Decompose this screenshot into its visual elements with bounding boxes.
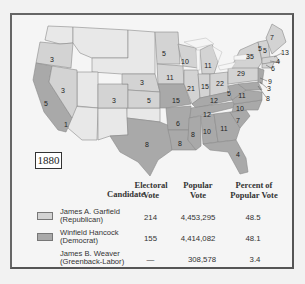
state-electoral-count: 5 — [263, 47, 267, 54]
state-electoral-count: 8 — [145, 141, 149, 148]
state-electoral-count: 12 — [203, 111, 211, 118]
electoral-weaver: — — [138, 255, 163, 264]
state-electoral-count: 3 — [112, 97, 116, 104]
state-electoral-count: 3 — [267, 85, 271, 92]
electoral-garfield: 214 — [138, 213, 163, 222]
territory-washington — [45, 26, 73, 44]
header-electoral-vote: Electoral Vote — [128, 181, 174, 200]
territory-utah — [77, 72, 98, 108]
territory-idaho-montana — [73, 27, 128, 58]
state-electoral-count: 1 — [64, 121, 68, 128]
state-electoral-count: 10 — [181, 58, 189, 65]
candidate-weaver: James B. Weaver (Greenback-Labor) — [60, 250, 124, 266]
state-electoral-count: 12 — [210, 97, 218, 104]
state-electoral-count: 35 — [246, 53, 254, 60]
state-electoral-count: 3 — [50, 56, 54, 63]
state-electoral-count: 29 — [237, 70, 245, 77]
state-electoral-count: 11 — [220, 125, 227, 132]
us-electoral-map: 3351335510111121152215125111210768101188… — [0, 0, 305, 200]
state-electoral-count: 15 — [201, 83, 209, 90]
state-florida — [203, 140, 248, 174]
state-electoral-count: 8 — [178, 140, 182, 147]
state-electoral-count: 7 — [270, 34, 274, 41]
candidate-hancock: Winfield Hancock (Democrat) — [60, 229, 119, 245]
state-electoral-count: 5 — [162, 50, 166, 57]
percent-weaver: 3.4 — [240, 255, 270, 264]
state-electoral-count: 11 — [204, 62, 211, 69]
state-electoral-count: 6 — [271, 65, 275, 72]
state-electoral-count: 15 — [172, 97, 180, 104]
state-new-jersey — [258, 68, 264, 84]
state-electoral-count: 3 — [140, 79, 144, 86]
state-electoral-count: 9 — [268, 78, 272, 85]
lake-michigan — [196, 50, 200, 70]
state-kansas — [128, 90, 160, 108]
state-electoral-count: 5 — [227, 90, 231, 97]
state-electoral-count: 7 — [236, 117, 240, 124]
header-popular-vote: Popular Vote — [178, 181, 218, 200]
popular-garfield: 4,453,295 — [176, 213, 220, 222]
election-year-label: 1880 — [35, 152, 62, 169]
state-electoral-count: 11 — [166, 74, 173, 81]
header-percent-popular-vote: Percent of Popular Vote — [224, 181, 284, 200]
state-electoral-count: 10 — [203, 128, 211, 135]
candidate-garfield: James A. Garfield (Republican) — [60, 208, 120, 224]
state-electoral-count: 11 — [238, 92, 245, 99]
state-electoral-count: 5 — [147, 97, 151, 104]
swatch-republican — [37, 212, 53, 220]
percent-hancock: 48.1 — [238, 234, 268, 243]
percent-garfield: 48.5 — [238, 213, 268, 222]
state-electoral-count: 4 — [236, 151, 240, 158]
state-minnesota — [155, 32, 180, 64]
state-electoral-count: 5 — [258, 45, 262, 52]
electoral-hancock: 155 — [138, 234, 163, 243]
state-electoral-count: 3 — [61, 87, 65, 94]
state-electoral-count: 22 — [216, 80, 224, 87]
state-electoral-count: 21 — [187, 85, 195, 92]
state-electoral-count: 4 — [276, 58, 280, 65]
state-electoral-count: 5 — [44, 100, 48, 107]
swatch-democrat — [37, 233, 53, 241]
popular-hancock: 4,414,082 — [176, 234, 220, 243]
state-electoral-count: 8 — [266, 95, 270, 102]
state-electoral-count: 10 — [236, 105, 244, 112]
state-electoral-count: 8 — [191, 131, 195, 138]
state-electoral-count: 6 — [176, 120, 180, 127]
popular-weaver: 308,578 — [180, 255, 224, 264]
state-electoral-count: 13 — [281, 49, 289, 56]
